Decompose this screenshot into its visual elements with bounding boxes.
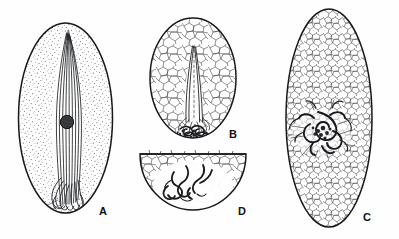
figure-plate: A B C D <box>0 0 399 239</box>
panel-label-d: D <box>238 205 246 217</box>
figure-illustration <box>0 0 399 239</box>
panel-a-nucleus <box>60 115 73 128</box>
caption-fragment <box>0 231 399 239</box>
panel-d-drawing <box>140 150 246 212</box>
panel-label-a: A <box>99 205 107 217</box>
panel-label-c: C <box>363 211 371 223</box>
panel-b-drawing <box>150 18 236 140</box>
panel-label-b: B <box>229 128 237 140</box>
panel-a-drawing <box>19 23 113 213</box>
panel-c-drawing <box>286 9 372 227</box>
